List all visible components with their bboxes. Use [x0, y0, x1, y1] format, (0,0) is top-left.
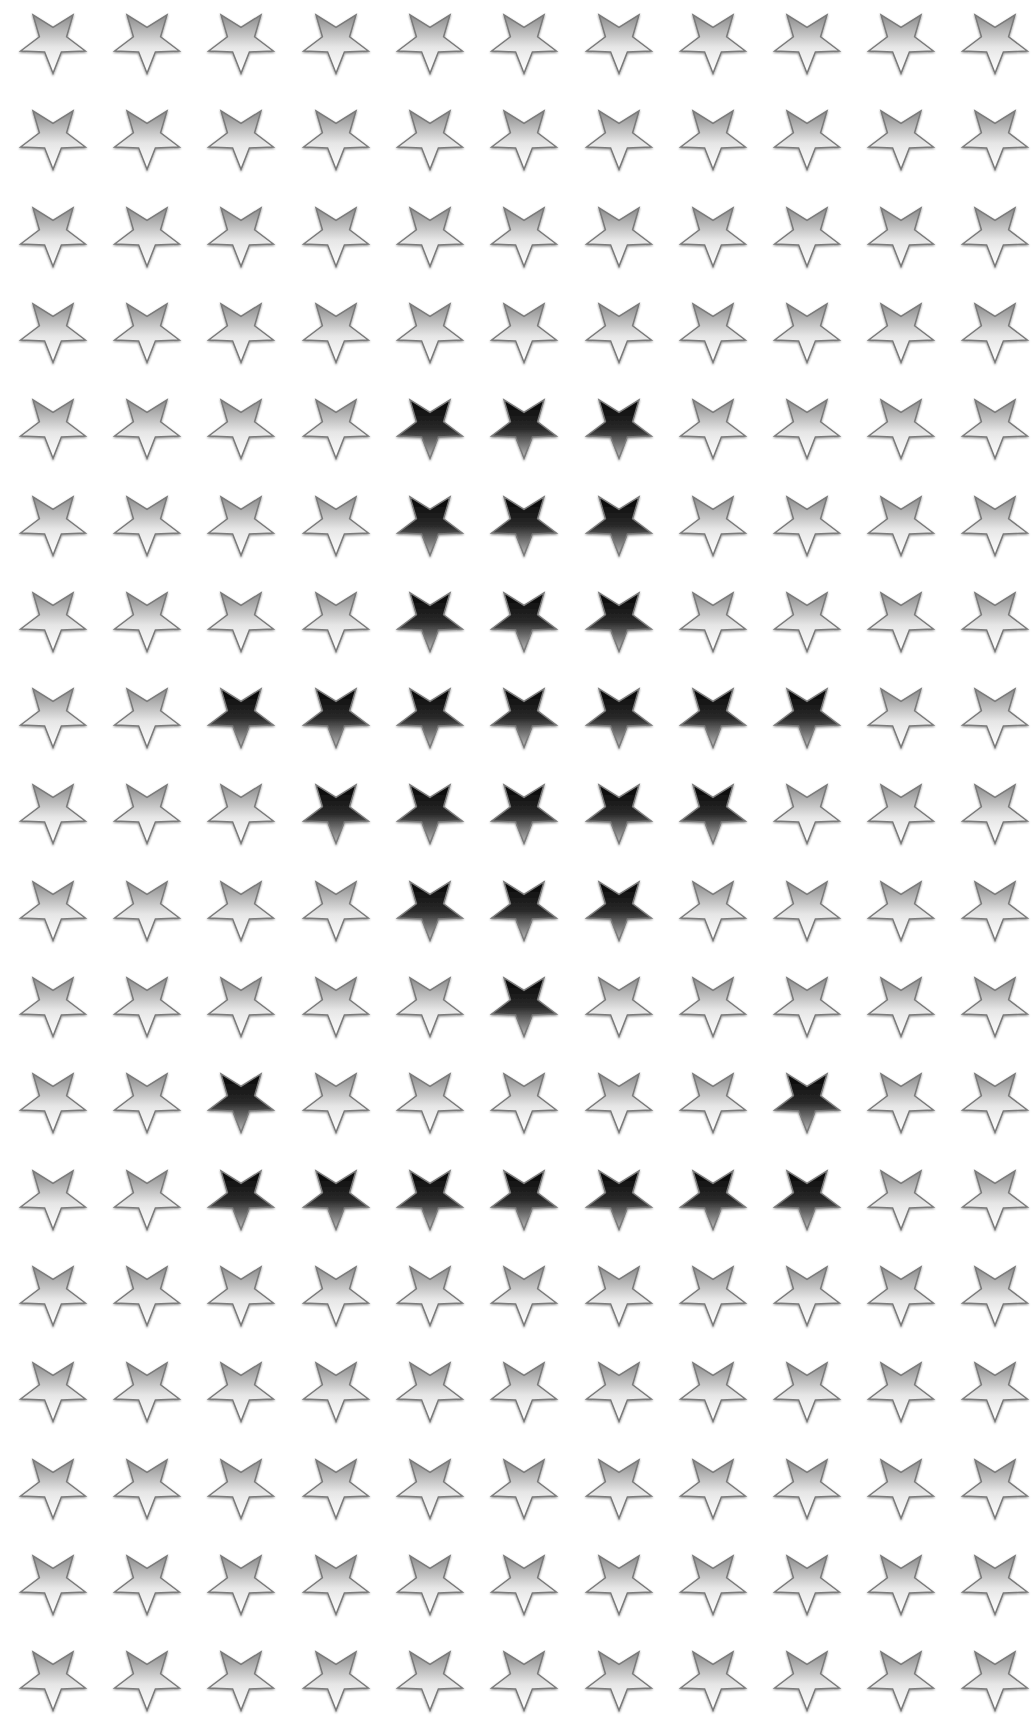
- light-star-icon: [490, 1549, 558, 1615]
- dark-star-icon: [302, 1164, 370, 1230]
- light-star-icon: [679, 8, 747, 74]
- light-star-icon: [302, 1645, 370, 1711]
- light-star-icon: [867, 586, 935, 652]
- light-star-icon: [396, 8, 464, 74]
- light-star-icon: [585, 1356, 653, 1422]
- light-star-icon: [773, 201, 841, 267]
- light-star-icon: [113, 1067, 181, 1133]
- dark-star-icon: [490, 971, 558, 1037]
- light-star-icon: [19, 875, 87, 941]
- light-star-icon: [773, 490, 841, 556]
- light-star-icon: [207, 297, 275, 363]
- light-star-icon: [867, 778, 935, 844]
- light-star-icon: [867, 971, 935, 1037]
- light-star-icon: [490, 201, 558, 267]
- dark-star-icon: [396, 682, 464, 748]
- light-star-icon: [302, 1067, 370, 1133]
- light-star-icon: [585, 1453, 653, 1519]
- light-star-icon: [19, 1549, 87, 1615]
- light-star-icon: [773, 393, 841, 459]
- light-star-icon: [19, 971, 87, 1037]
- light-star-icon: [302, 490, 370, 556]
- light-star-icon: [867, 490, 935, 556]
- light-star-icon: [113, 1356, 181, 1422]
- light-star-icon: [867, 8, 935, 74]
- light-star-icon: [679, 1549, 747, 1615]
- dark-star-icon: [679, 778, 747, 844]
- light-star-icon: [490, 8, 558, 74]
- light-star-icon: [585, 1549, 653, 1615]
- light-star-icon: [396, 1645, 464, 1711]
- light-star-icon: [961, 586, 1029, 652]
- light-star-icon: [396, 1549, 464, 1615]
- light-star-icon: [867, 1645, 935, 1711]
- light-star-icon: [207, 1645, 275, 1711]
- dark-star-icon: [207, 1067, 275, 1133]
- light-star-icon: [773, 1645, 841, 1711]
- light-star-icon: [773, 778, 841, 844]
- light-star-icon: [19, 1645, 87, 1711]
- light-star-icon: [19, 1453, 87, 1519]
- light-star-icon: [207, 1356, 275, 1422]
- light-star-icon: [679, 201, 747, 267]
- light-star-icon: [396, 297, 464, 363]
- light-star-icon: [207, 1260, 275, 1326]
- dark-star-icon: [490, 682, 558, 748]
- light-star-icon: [679, 1645, 747, 1711]
- light-star-icon: [207, 104, 275, 170]
- light-star-icon: [961, 104, 1029, 170]
- light-star-icon: [302, 1453, 370, 1519]
- light-star-icon: [961, 875, 1029, 941]
- light-star-icon: [113, 393, 181, 459]
- light-star-icon: [113, 1549, 181, 1615]
- light-star-icon: [207, 1549, 275, 1615]
- light-star-icon: [961, 201, 1029, 267]
- light-star-icon: [302, 1549, 370, 1615]
- light-star-icon: [585, 104, 653, 170]
- dark-star-icon: [585, 778, 653, 844]
- light-star-icon: [773, 8, 841, 74]
- light-star-icon: [490, 104, 558, 170]
- light-star-icon: [867, 104, 935, 170]
- dark-star-icon: [585, 682, 653, 748]
- light-star-icon: [867, 1067, 935, 1133]
- dark-star-icon: [490, 586, 558, 652]
- dark-star-icon: [585, 875, 653, 941]
- light-star-icon: [961, 297, 1029, 363]
- star-grid: [0, 0, 1036, 1723]
- dark-star-icon: [773, 1067, 841, 1133]
- light-star-icon: [396, 104, 464, 170]
- light-star-icon: [396, 1067, 464, 1133]
- light-star-icon: [961, 1067, 1029, 1133]
- light-star-icon: [961, 971, 1029, 1037]
- light-star-icon: [867, 1549, 935, 1615]
- light-star-icon: [773, 586, 841, 652]
- dark-star-icon: [396, 1164, 464, 1230]
- light-star-icon: [113, 778, 181, 844]
- dark-star-icon: [585, 393, 653, 459]
- light-star-icon: [113, 586, 181, 652]
- light-star-icon: [19, 586, 87, 652]
- light-star-icon: [113, 682, 181, 748]
- light-star-icon: [585, 201, 653, 267]
- light-star-icon: [585, 971, 653, 1037]
- dark-star-icon: [490, 875, 558, 941]
- dark-star-icon: [490, 393, 558, 459]
- light-star-icon: [396, 971, 464, 1037]
- light-star-icon: [679, 393, 747, 459]
- light-star-icon: [207, 875, 275, 941]
- light-star-icon: [19, 1260, 87, 1326]
- dark-star-icon: [773, 1164, 841, 1230]
- light-star-icon: [113, 1453, 181, 1519]
- light-star-icon: [585, 1067, 653, 1133]
- light-star-icon: [302, 1356, 370, 1422]
- light-star-icon: [679, 490, 747, 556]
- light-star-icon: [961, 1645, 1029, 1711]
- light-star-icon: [207, 201, 275, 267]
- light-star-icon: [19, 490, 87, 556]
- light-star-icon: [19, 8, 87, 74]
- light-star-icon: [867, 201, 935, 267]
- light-star-icon: [961, 8, 1029, 74]
- light-star-icon: [773, 1260, 841, 1326]
- light-star-icon: [585, 297, 653, 363]
